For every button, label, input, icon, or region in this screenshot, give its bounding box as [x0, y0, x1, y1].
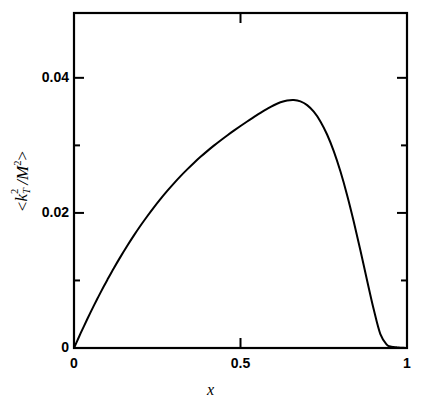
- y-axis-title-slash: /: [12, 179, 31, 184]
- x-tick-label-0.5: 0.5: [211, 355, 271, 371]
- y-tick-label-0.04: 0.04: [0, 69, 69, 85]
- y-axis-title-k: k: [12, 193, 31, 201]
- x-tick-label-1: 1: [377, 355, 421, 371]
- y-tick-label-0: 0: [0, 339, 69, 355]
- data-curve-series-0: [74, 100, 407, 348]
- y-axis-title: <k2T/M2>: [0, 161, 92, 201]
- chart-figure: 0.04 0.02 0 0 0.5 1 <k2T/M2> x: [0, 0, 421, 409]
- plot-frame: [74, 13, 407, 348]
- y-axis-title-k-sup: 2: [10, 188, 20, 194]
- axis-ticks: [74, 13, 407, 348]
- y-axis-title-k-sub: T: [22, 188, 32, 194]
- y-axis-title-close: >: [12, 150, 31, 160]
- x-axis-title: x: [0, 381, 421, 399]
- y-tick-label-0.02: 0.02: [0, 204, 69, 220]
- y-axis-title-open: <: [12, 201, 31, 211]
- y-axis-title-M-sup: 2: [12, 160, 23, 165]
- y-axis-title-M: M: [12, 165, 31, 179]
- x-tick-label-0: 0: [44, 355, 104, 371]
